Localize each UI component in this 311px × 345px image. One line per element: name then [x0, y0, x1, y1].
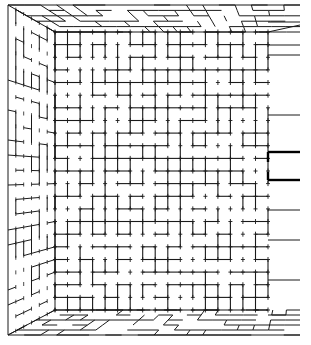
floor-maze	[8, 310, 300, 335]
right-wall-lines	[268, 22, 300, 315]
ceiling-maze	[8, 5, 300, 32]
back-wall-maze	[53, 30, 270, 313]
left-wall-maze	[8, 8, 55, 333]
maze-canvas	[0, 0, 311, 345]
right-wall-openings	[268, 152, 300, 180]
maze-room-diagram	[0, 0, 311, 345]
room-frame	[8, 5, 300, 335]
